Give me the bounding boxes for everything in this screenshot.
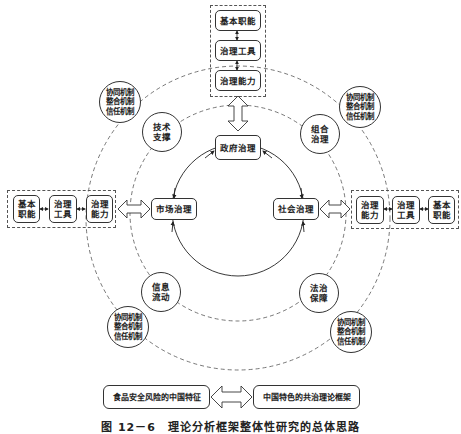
inner-arrow-society-bottom: [303, 222, 304, 232]
market-governance-node: 市场治理: [151, 198, 197, 220]
inner-arrow-market-bottom: [172, 222, 173, 232]
figure-caption: 图 12－6 理论分析框架整体性研究的总体思路: [0, 418, 461, 434]
mechanisms-node-bottom-right: 协同机制 整合机制 信任机制: [330, 311, 372, 353]
rule-of-law-node: 法治 保障: [299, 273, 339, 313]
left-double-arrow: [118, 200, 150, 218]
china-food-safety-risk-box: 食品安全风险的中国特征: [103, 385, 210, 409]
right-governance-capacity-box: 治理 能力: [356, 196, 384, 224]
mechanisms-node-top-left: 协同机制 整合机制 信任机制: [99, 81, 141, 123]
mechanisms-node-bottom-left: 协同机制 整合机制 信任机制: [107, 306, 149, 348]
society-governance-node: 社会治理: [273, 198, 319, 220]
government-governance-node: 政府治理: [215, 135, 261, 160]
right-basic-function-box: 基本 职能: [428, 196, 455, 224]
top-governance-tools-box: 治理工具: [215, 40, 261, 61]
co-governance-framework-box: 中国特色的共治理论框架: [253, 385, 360, 409]
left-governance-tools-box: 治理 工具: [49, 195, 77, 223]
tech-support-node: 技术 支撑: [142, 112, 182, 152]
inner-arrow-market-top: [174, 188, 175, 198]
top-double-arrow: [228, 96, 248, 131]
info-flow-node: 信息 流动: [141, 272, 181, 312]
inner-arrow-society-top: [301, 188, 302, 198]
left-basic-function-box: 基本 职能: [13, 195, 40, 223]
mechanisms-node-top-right: 协同机制 整合机制 信任机制: [339, 86, 381, 128]
inner-arrow-gov-right: [263, 151, 272, 158]
right-governance-tools-box: 治理 工具: [392, 196, 420, 224]
top-basic-function-box: 基本职能: [215, 10, 261, 31]
combined-governance-node: 组合 治理: [300, 114, 340, 154]
top-governance-capacity-box: 治理能力: [215, 70, 261, 91]
bottom-double-arrow: [211, 386, 252, 408]
left-governance-capacity-box: 治理 能力: [86, 195, 113, 223]
